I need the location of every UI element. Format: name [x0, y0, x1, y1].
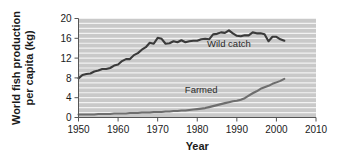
fish-production-chart: 0481216201950196019701980199020002010Yea…: [0, 0, 348, 158]
series-label-wild-catch: Wild catch: [207, 38, 251, 49]
y-tick-label: 20: [60, 13, 72, 24]
x-tick-label: 1960: [107, 124, 130, 135]
y-tick-label: 12: [60, 53, 72, 64]
y-tick-label: 16: [60, 33, 72, 44]
chart-canvas: 0481216201950196019701980199020002010Yea…: [0, 0, 348, 158]
gridlines: [79, 19, 317, 118]
x-tick-label: 1970: [147, 124, 170, 135]
x-tick-label: 2000: [265, 124, 288, 135]
x-tick-label: 1980: [186, 124, 209, 135]
y-axis-title-line1: World fish production: [10, 11, 22, 125]
series-label-farmed: Farmed: [185, 84, 218, 95]
y-tick-label: 4: [66, 92, 72, 103]
x-tick-label: 1950: [67, 124, 90, 135]
x-tick-label: 2010: [305, 124, 328, 135]
y-axis-title-line2: per capita (kg): [23, 30, 35, 106]
y-tick-label: 8: [66, 73, 72, 84]
y-axis: 048121620: [60, 13, 78, 123]
x-axis-title: Year: [186, 140, 210, 152]
y-tick-label: 0: [66, 112, 72, 123]
x-axis: 1950196019701980199020002010: [67, 118, 327, 135]
x-tick-label: 1990: [226, 124, 249, 135]
